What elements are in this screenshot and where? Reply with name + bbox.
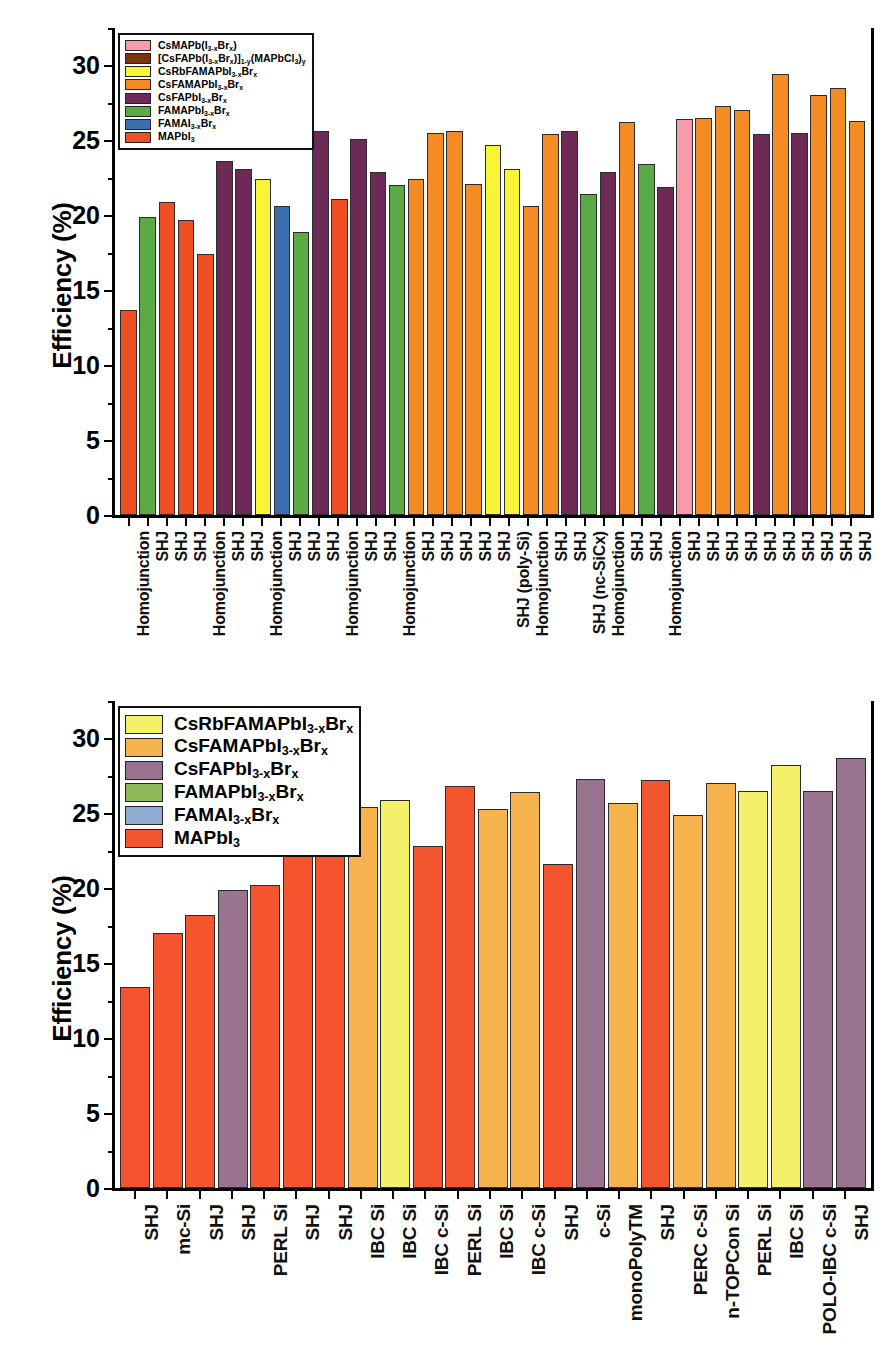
x-axis-tick-label: SHJ xyxy=(561,1204,583,1240)
x-axis-tick-label: SHJ xyxy=(686,531,704,562)
x-axis-tick-label: SHJ xyxy=(762,531,780,562)
y-axis-tick-minor xyxy=(108,28,115,30)
x-axis-tick-label: SHJ xyxy=(851,1204,873,1240)
x-axis-tick xyxy=(134,1188,136,1199)
bar xyxy=(120,310,137,515)
x-axis-tick-label: IBC Si xyxy=(399,1204,421,1259)
y-axis-tick-major xyxy=(104,515,115,517)
bar xyxy=(676,119,693,515)
legend-swatch xyxy=(125,761,163,780)
y-axis-tick-major xyxy=(104,290,115,292)
bar xyxy=(641,780,671,1188)
bar xyxy=(753,134,770,515)
x-axis-tick-label: mc-Si xyxy=(173,1204,195,1255)
x-axis-tick-label: SHJ xyxy=(857,531,875,562)
x-axis-tick xyxy=(457,1188,459,1199)
bar xyxy=(445,786,475,1188)
bar xyxy=(619,122,636,515)
bar xyxy=(350,139,367,515)
x-axis-tick-label: SHJ xyxy=(705,531,723,562)
x-axis-tick xyxy=(470,515,472,526)
x-axis-tick xyxy=(199,1188,201,1199)
x-axis-tick xyxy=(489,1188,491,1199)
x-axis-tick xyxy=(299,515,301,526)
x-axis-tick xyxy=(715,1188,717,1199)
y-axis-tick-label: 25 xyxy=(72,126,100,155)
x-axis-tick-label: SHJ xyxy=(800,531,818,562)
x-axis-tick-label: SHJ xyxy=(325,531,343,562)
x-axis-tick-label: SHJ xyxy=(458,531,476,562)
bar xyxy=(543,864,573,1188)
bar xyxy=(465,184,482,515)
x-axis-tick-label: SHJ xyxy=(206,1204,228,1240)
x-axis-tick xyxy=(295,1188,297,1199)
legend-item: MAPbI3 xyxy=(125,828,353,849)
x-axis-tick xyxy=(521,1188,523,1199)
legend-item: MAPbI3 xyxy=(125,131,306,143)
x-axis-tick xyxy=(618,1188,620,1199)
legend-item: FAMAPbI3-xBrx xyxy=(125,782,353,803)
x-axis-tick-label: SHJ xyxy=(238,1204,260,1240)
x-axis-tick-label: SHJ xyxy=(287,531,305,562)
legend-label: CsFAMAPbI3-xBrx xyxy=(174,736,328,757)
legend-label: CsMAPb(I3-xBrx) xyxy=(158,40,237,52)
bar xyxy=(315,813,345,1188)
x-axis-tick-label: SHJ (nc-SiCx) xyxy=(591,531,609,634)
y-axis-tick-label: 20 xyxy=(72,201,100,230)
x-axis-tick-label: SHJ xyxy=(382,531,400,562)
legend-swatch xyxy=(125,829,163,848)
x-axis-tick-label: monoPolyTM xyxy=(625,1204,647,1321)
legend-swatch xyxy=(125,132,151,143)
x-axis-tick-label: POLO-IBC c-Si xyxy=(819,1204,841,1334)
x-axis-tick xyxy=(774,515,776,526)
x-axis-tick xyxy=(261,515,263,526)
x-axis-tick-label: PERL Si xyxy=(270,1204,292,1276)
bar xyxy=(715,106,732,515)
bar xyxy=(153,933,183,1188)
x-axis-tick-label: SHJ xyxy=(724,531,742,562)
bar xyxy=(810,95,827,515)
x-axis-tick xyxy=(318,515,320,526)
x-axis-tick-label: IBC Si xyxy=(367,1204,389,1259)
bar xyxy=(216,161,233,515)
legend-swatch xyxy=(125,783,163,802)
bar xyxy=(772,74,789,515)
chart-panel-bottom: Efficiency (%) SHJmc-SiSHJSHJPERL SiSHJS… xyxy=(0,668,887,1354)
bar xyxy=(427,133,444,515)
x-axis-tick xyxy=(489,515,491,526)
x-axis-tick-label: SHJ xyxy=(439,531,457,562)
x-axis-tick-label: SHJ xyxy=(141,1204,163,1240)
x-axis-tick xyxy=(679,515,681,526)
legend-label: FAMAI3-xBrx xyxy=(158,118,216,130)
x-axis-tick xyxy=(736,515,738,526)
x-axis-tick xyxy=(394,515,396,526)
y-axis-tick-minor xyxy=(108,701,115,703)
x-axis-tick-label: IBC Si xyxy=(496,1204,518,1259)
y-axis-tick-minor xyxy=(108,103,115,105)
legend-label: [CsFAPb(I3-xBrx)]1-y(MAPbCl3)y xyxy=(158,53,306,65)
bar xyxy=(370,172,387,515)
y-axis-tick-label: 10 xyxy=(72,1024,100,1053)
legend-item: CsFAMAPbI3-xBrx xyxy=(125,79,306,91)
y-axis-tick-label: 10 xyxy=(72,351,100,380)
x-axis-tick-label: PERC c-Si xyxy=(690,1204,712,1295)
bar xyxy=(413,846,443,1188)
y-axis-tick-minor xyxy=(108,328,115,330)
x-axis-tick xyxy=(360,1188,362,1199)
bar xyxy=(673,815,703,1188)
bar xyxy=(771,765,801,1188)
legend-swatch xyxy=(125,119,151,130)
x-axis-tick xyxy=(584,515,586,526)
bar xyxy=(608,803,638,1188)
x-axis-tick xyxy=(185,515,187,526)
x-axis-tick xyxy=(812,515,814,526)
y-axis-tick-minor xyxy=(108,253,115,255)
x-axis-tick xyxy=(844,1188,846,1199)
x-axis-tick xyxy=(508,515,510,526)
x-axis-tick-label: SHJ xyxy=(496,531,514,562)
x-axis-tick xyxy=(698,515,700,526)
legend-swatch xyxy=(125,715,163,734)
x-axis-tick-label: SHJ xyxy=(173,531,191,562)
x-axis-tick xyxy=(166,1188,168,1199)
bar xyxy=(523,206,540,515)
